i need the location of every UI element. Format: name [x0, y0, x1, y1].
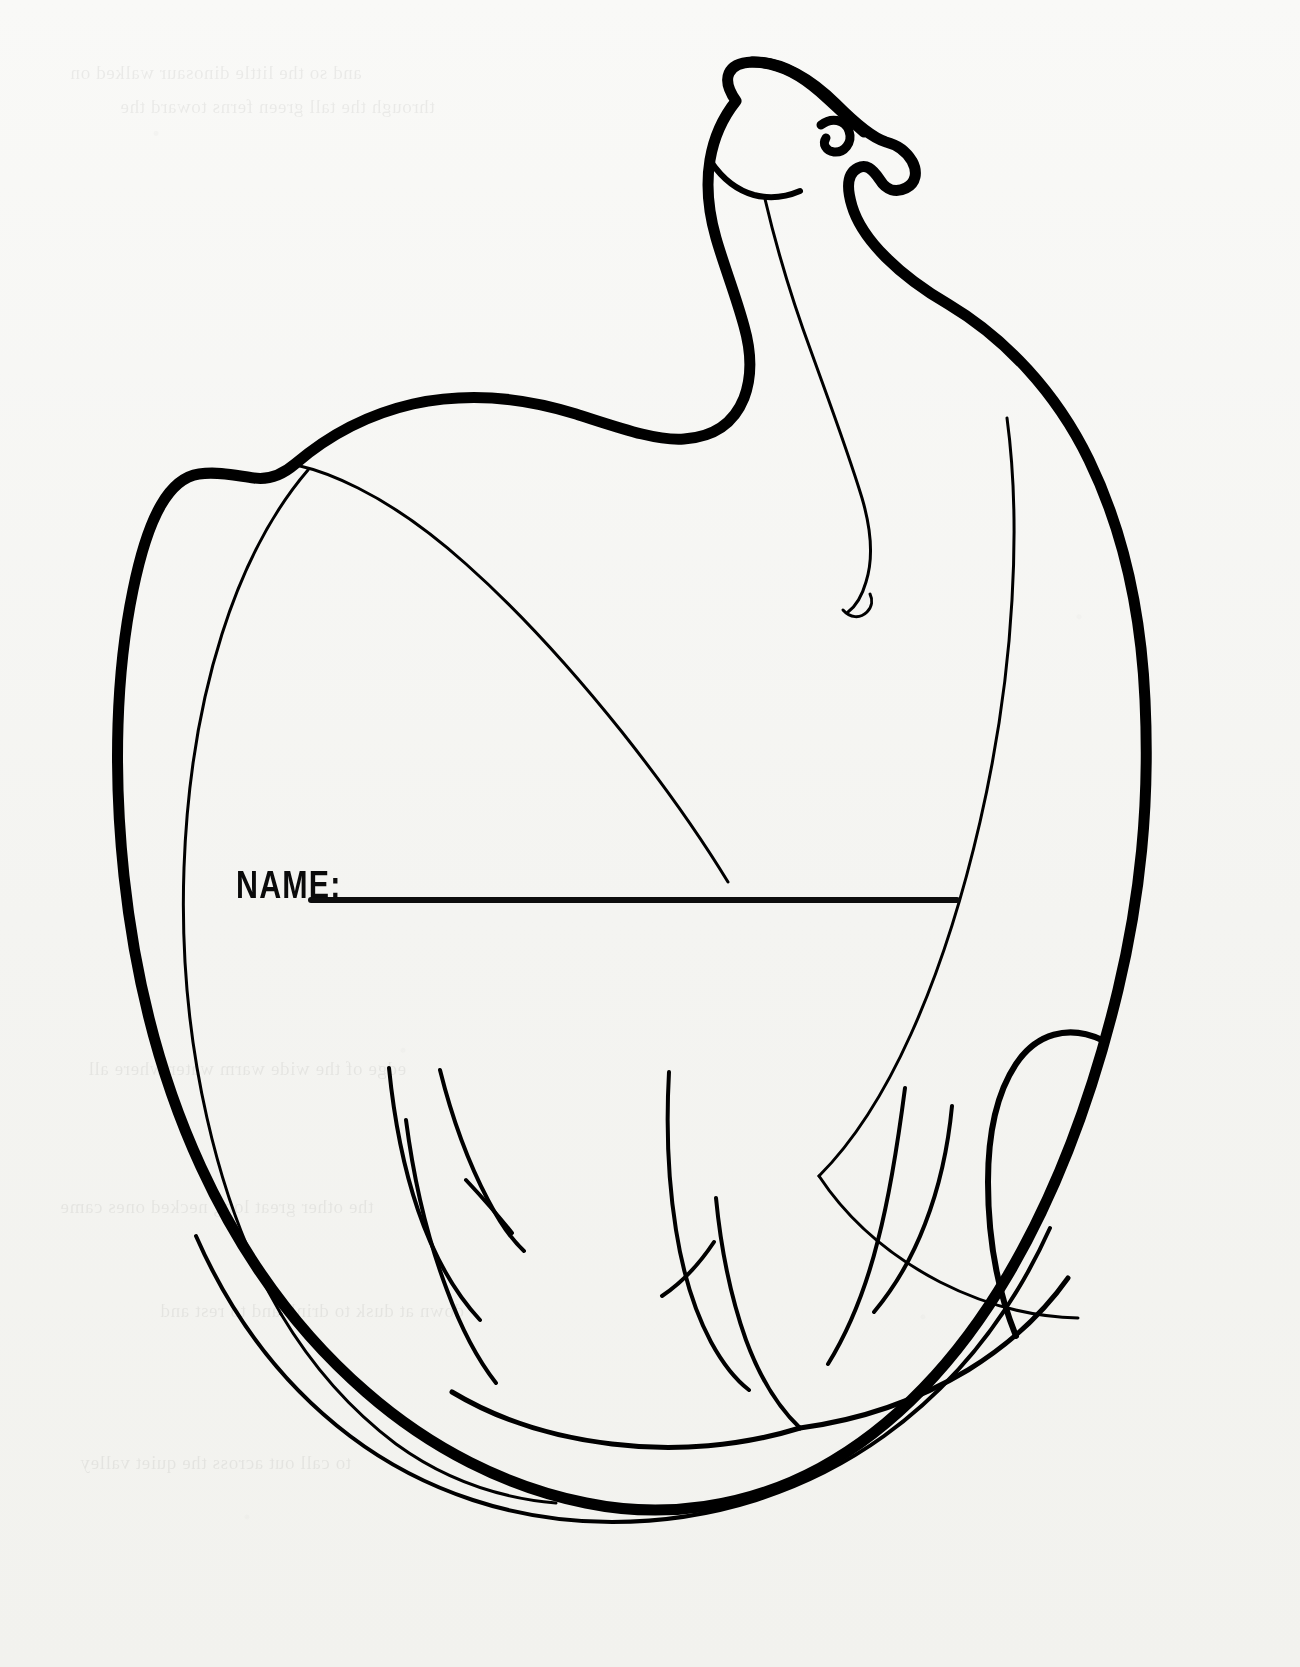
- hind-leg-front-edge: [828, 1088, 905, 1364]
- mouth: [711, 162, 800, 197]
- chest-hook: [843, 594, 872, 617]
- dinosaur-artwork: [0, 0, 1300, 1667]
- front-leg-inner-shin: [406, 1120, 496, 1383]
- dinosaur-outline: [118, 62, 1147, 1510]
- coloring-page: and so the little dinosaur walked on thr…: [0, 0, 1300, 1667]
- front-leg-back-edge: [440, 1070, 524, 1251]
- far-front-leg-front-edge: [668, 1072, 749, 1390]
- eye: [821, 120, 850, 152]
- name-input-line[interactable]: [308, 897, 960, 903]
- far-front-leg-back-edge: [716, 1198, 800, 1428]
- belly-bottom-line: [452, 1392, 800, 1447]
- neck-inner-line: [765, 199, 871, 612]
- name-field[interactable]: NAME:: [236, 866, 960, 904]
- name-label: NAME:: [236, 866, 342, 904]
- front-leg-toe: [466, 1180, 512, 1233]
- front-leg-front-edge: [389, 1068, 480, 1320]
- right-flank-inner-line: [819, 418, 1014, 1176]
- shoulder-inner-line: [300, 466, 728, 882]
- belly-right-line: [800, 1278, 1068, 1428]
